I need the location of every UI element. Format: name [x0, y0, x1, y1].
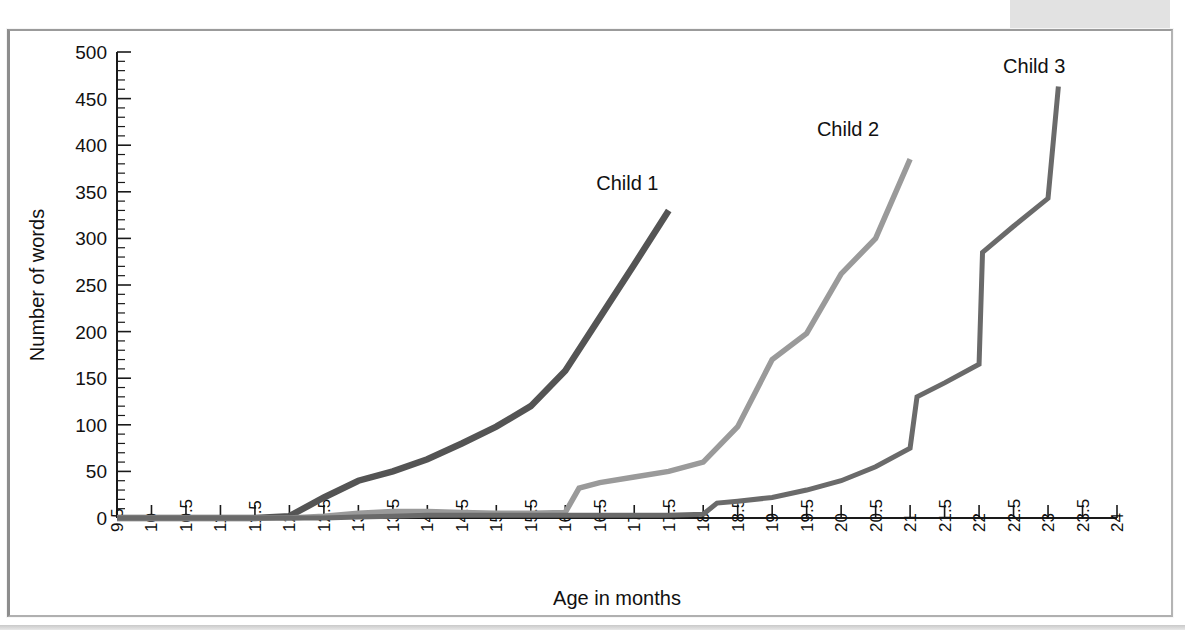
y-tick-label: 200	[75, 322, 107, 343]
x-tick-label: 20.5	[867, 499, 886, 532]
series-line-3	[117, 86, 1058, 518]
y-axis-title: Number of words	[26, 209, 48, 361]
x-tick-label: 23	[1039, 513, 1058, 532]
chart-canvas: 050100150200250300350400450500 9.51010.5…	[0, 0, 1185, 644]
vocabulary-growth-chart: 050100150200250300350400450500 9.51010.5…	[0, 0, 1185, 644]
y-tick-label: 0	[96, 508, 107, 529]
y-tick-label: 450	[75, 89, 107, 110]
y-tick-label: 50	[86, 461, 107, 482]
x-tick-label: 21	[901, 513, 920, 532]
x-tick-label: 22	[970, 513, 989, 532]
y-tick-label: 300	[75, 228, 107, 249]
series-label-3: Child 3	[1003, 55, 1065, 77]
y-tick-label: 500	[75, 42, 107, 63]
series-line-2	[117, 159, 910, 518]
x-axis-title: Age in months	[553, 587, 681, 609]
series-label-2: Child 2	[817, 118, 879, 140]
x-tick-label: 22.5	[1005, 499, 1024, 532]
series-lines	[117, 86, 1058, 518]
series-labels: Child 1Child 2Child 3	[596, 55, 1065, 194]
x-tick-label: 21.5	[936, 499, 955, 532]
y-tick-label: 150	[75, 368, 107, 389]
y-tick-label: 400	[75, 135, 107, 156]
x-tick-label: 23.5	[1074, 499, 1093, 532]
x-tick-label: 19	[763, 513, 782, 532]
series-line-1	[117, 210, 669, 518]
series-label-1: Child 1	[596, 172, 658, 194]
x-tick-label: 20	[832, 513, 851, 532]
y-tick-label: 350	[75, 182, 107, 203]
y-tick-label: 100	[75, 415, 107, 436]
y-tick-label: 250	[75, 275, 107, 296]
x-tick-label: 19.5	[798, 499, 817, 532]
axis-titles: Number of wordsAge in months	[26, 209, 681, 609]
y-axis: 050100150200250300350400450500	[75, 42, 131, 529]
x-tick-label: 24	[1108, 513, 1127, 532]
